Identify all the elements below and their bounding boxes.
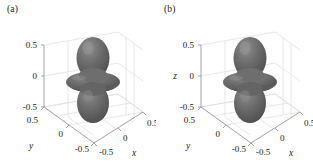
upper-lobe-highlight-a: [83, 41, 94, 55]
figure-container: (a): [0, 0, 313, 164]
z-tick-lower-a: -0.5: [23, 102, 38, 112]
x-tick-third-b: 0.5: [304, 118, 313, 128]
y-tick-third-a: -0.5: [75, 144, 90, 154]
y-tick-first-b: 0.5: [184, 115, 196, 125]
y-axis-title-b: y: [185, 141, 191, 151]
z-tick-middle-b: 0: [190, 71, 195, 81]
y-tick-second-a: 0: [59, 129, 64, 139]
x-tick-first-b: -0.5: [256, 147, 271, 157]
z-tick-upper-b: 0.5: [183, 40, 195, 50]
isosurface-b: [223, 37, 277, 123]
x-axis-title-a: x: [131, 148, 137, 158]
x-tick-second-b: 0: [280, 133, 285, 143]
torus-highlight-a: [72, 75, 86, 80]
y-tick-third-b: -0.5: [232, 144, 247, 154]
plot-b: 0.5 0 -0.5 z 0.5 0 -0.5 y -0.5 0 0.5 x: [157, 0, 313, 164]
x-tick-second-a: 0: [123, 133, 128, 143]
grid-back-right-b: [275, 32, 300, 119]
lower-lobe-highlight-a: [83, 90, 93, 102]
y-tick-second-b: 0: [216, 129, 221, 139]
panel-a: (a): [0, 0, 156, 164]
grid-back-right-a: [118, 32, 143, 119]
plot-a: 0.5 0 -0.5 0.5 0 -0.5 y -0.5 0 0.5 x: [0, 0, 156, 164]
torus-highlight-b: [229, 75, 243, 80]
x-tick-first-a: -0.5: [99, 147, 114, 157]
z-tick-middle-a: 0: [33, 71, 38, 81]
upper-lobe-highlight-b: [240, 41, 251, 55]
lower-lobe-highlight-b: [240, 90, 250, 102]
z-tick-lower-b: -0.5: [180, 102, 195, 112]
isosurface-a: [66, 37, 120, 123]
x-tick-third-a: 0.5: [147, 118, 156, 128]
z-axis-title-b: z: [172, 71, 177, 81]
x-axis-title-b: x: [288, 148, 294, 158]
z-tick-upper-a: 0.5: [26, 40, 38, 50]
y-tick-first-a: 0.5: [27, 115, 39, 125]
panel-b: (b): [157, 0, 313, 164]
y-axis-title-a: y: [28, 141, 34, 151]
